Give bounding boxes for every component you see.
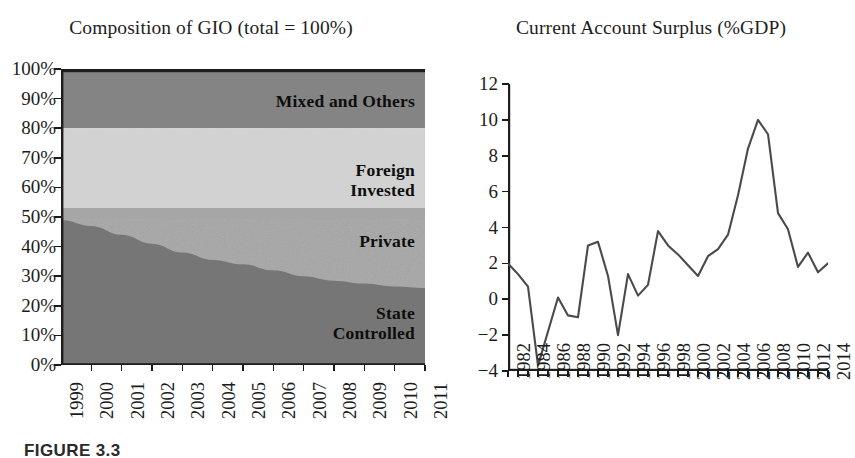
line-y-tick-label: 12: [464, 74, 498, 93]
area-x-tick-label: 2001: [129, 382, 148, 419]
line-y-tick-label: −4: [464, 361, 498, 380]
area-x-tick-mark: [424, 365, 426, 371]
line-x-tick-label: 1990: [595, 343, 614, 380]
area-y-tick-mark: [54, 305, 61, 307]
line-x-tick-label: 2000: [695, 343, 714, 380]
area-x-tick-mark: [212, 365, 214, 371]
area-y-tick-mark: [54, 335, 61, 337]
area-y-tick-mark: [54, 246, 61, 248]
band-label-foreign-line2: Invested: [350, 180, 415, 200]
band-label-state-controlled: StateControlled: [333, 304, 415, 343]
area-x-tick-mark: [91, 365, 93, 371]
area-y-tick-mark: [54, 157, 61, 159]
area-x-tick-label: 2004: [220, 382, 239, 419]
line-x-tick-label: 2010: [795, 343, 814, 380]
line-x-tick-label: 1992: [615, 343, 634, 380]
line-chart-plot-area: [508, 84, 828, 371]
area-y-tick-mark: [54, 187, 61, 189]
area-y-tick-label: 60%: [0, 177, 56, 196]
area-x-tick-mark: [121, 365, 123, 371]
chart-panel-composition-of-gio: Composition of GIO (total = 100%) 0%10%2…: [0, 0, 440, 458]
area-y-tick-mark: [54, 275, 61, 277]
line-y-tick-label: 10: [464, 110, 498, 129]
area-y-tick-mark: [54, 127, 61, 129]
area-y-tick-label: 70%: [0, 148, 56, 167]
line-x-tick-label: 2006: [755, 343, 774, 380]
line-x-tick-label: 1986: [555, 343, 574, 380]
band-label-mixed-and-others: Mixed and Others: [276, 92, 415, 112]
line-y-tick-label: 0: [464, 289, 498, 308]
band-label-foreign-line1: Foreign: [356, 160, 415, 180]
band-label-private: Private: [359, 232, 415, 252]
area-y-tick-label: 90%: [0, 89, 56, 108]
line-x-tick-label: 1982: [515, 343, 534, 380]
line-x-tick-label: 1998: [675, 343, 694, 380]
area-x-tick-mark: [333, 365, 335, 371]
line-y-tick-label: 2: [464, 253, 498, 272]
line-y-tick-label: 6: [464, 182, 498, 201]
area-x-tick-label: 2007: [311, 382, 330, 419]
line-chart-frame: [508, 84, 828, 371]
area-x-tick-mark: [394, 365, 396, 371]
area-y-tick-label: 10%: [0, 325, 56, 344]
area-y-tick-label: 100%: [0, 59, 56, 78]
area-y-tick-mark: [54, 364, 61, 366]
area-x-tick-label: 2008: [341, 382, 360, 419]
area-x-tick-label: 2002: [159, 382, 178, 419]
area-y-tick-mark: [54, 216, 61, 218]
band-label-foreign-invested: ForeignInvested: [350, 161, 415, 200]
chart-title-current-account: Current Account Surplus (%GDP): [446, 17, 855, 39]
area-y-tick-label: 30%: [0, 266, 56, 285]
figure-caption: FIGURE 3.3: [24, 441, 121, 458]
area-chart-plot-area: Mixed and Others ForeignInvested Private…: [61, 69, 425, 365]
area-y-tick-label: 80%: [0, 118, 56, 137]
area-x-tick-mark: [364, 365, 366, 371]
line-x-tick-mark: [507, 370, 509, 377]
line-x-tick-label: 2008: [775, 343, 794, 380]
area-y-tick-label: 40%: [0, 237, 56, 256]
band-label-state-line1: State: [376, 303, 415, 323]
area-x-tick-mark: [303, 365, 305, 371]
line-y-tick-label: 8: [464, 146, 498, 165]
line-x-tick-label: 1984: [535, 343, 554, 380]
line-x-tick-label: 2014: [835, 343, 854, 380]
line-y-tick-label: 4: [464, 218, 498, 237]
line-chart-series-path: [508, 120, 828, 366]
line-x-tick-label: 2004: [735, 343, 754, 380]
area-x-tick-mark: [182, 365, 184, 371]
area-x-tick-label: 2005: [250, 382, 269, 419]
line-x-tick-label: 1988: [575, 343, 594, 380]
area-x-tick-label: 2003: [189, 382, 208, 419]
area-y-tick-mark: [54, 68, 61, 70]
line-x-tick-label: 2012: [815, 343, 834, 380]
area-x-tick-label: 2000: [98, 382, 117, 419]
line-chart-svg: [508, 84, 828, 371]
area-x-tick-label: 2006: [280, 382, 299, 419]
area-y-tick-mark: [54, 98, 61, 100]
line-x-tick-label: 1996: [655, 343, 674, 380]
area-x-tick-mark: [242, 365, 244, 371]
area-x-tick-label: 1999: [68, 382, 87, 419]
area-y-tick-label: 0%: [0, 355, 56, 374]
area-y-tick-label: 20%: [0, 296, 56, 315]
area-x-tick-label: 2009: [371, 382, 390, 419]
band-label-state-line2: Controlled: [333, 323, 415, 343]
area-y-tick-label: 50%: [0, 207, 56, 226]
line-x-tick-label: 2002: [715, 343, 734, 380]
area-x-tick-label: 2010: [402, 382, 421, 419]
line-y-tick-label: −2: [464, 325, 498, 344]
chart-title-composition: Composition of GIO (total = 100%): [0, 17, 431, 39]
area-x-tick-mark: [151, 365, 153, 371]
area-x-tick-mark: [273, 365, 275, 371]
line-x-tick-label: 1994: [635, 343, 654, 380]
